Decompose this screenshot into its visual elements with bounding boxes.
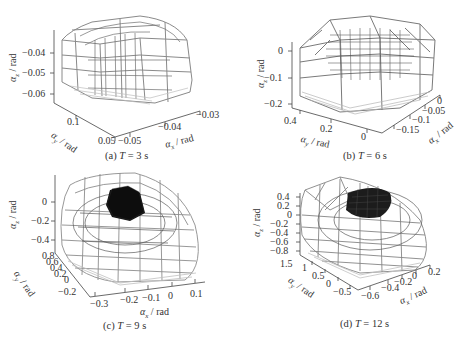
xtick: −0.1	[142, 293, 160, 303]
panel-a: −0.04 −0.05 −0.06 0.1 0.05 −0.05 −0.04 −…	[0, 0, 230, 165]
ytick: 0.05	[98, 136, 116, 146]
caption-c: (c) T = 9 s	[103, 320, 146, 331]
xtick: −0.03	[196, 110, 219, 120]
ztick: −0.8	[270, 246, 288, 256]
zlabel: αz / rad	[252, 208, 266, 237]
xtick: 0	[412, 271, 417, 281]
ytick: 0.2	[320, 124, 333, 134]
xlabel: αx / rad	[140, 307, 169, 321]
xtick: 0.1	[190, 289, 203, 299]
ytick: 0	[64, 275, 69, 285]
panel-b: 0 −0.1 −0.2 0.4 0.2 0 0 −0.05 −0.1 −0.15…	[230, 0, 459, 165]
ytick: 0	[361, 132, 366, 142]
zlabel: αz / rad	[8, 200, 22, 229]
wireframe-plot-d	[230, 165, 459, 338]
caption-a: (a) T = 3 s	[105, 150, 148, 161]
xtick: −0.04	[158, 122, 181, 132]
ztick: −0.06	[22, 89, 45, 99]
ytick: 0.5	[312, 271, 325, 281]
panel-c: 0 −0.2 −0.4 0.8 0.6 0.4 0.2 0 −0.2 −0.3 …	[0, 165, 230, 338]
ytick: 0.4	[284, 116, 297, 126]
ztick: −0.4	[31, 235, 49, 245]
ytick: 0	[326, 279, 331, 289]
ztick: −0.04	[22, 48, 45, 58]
ytick: 1.5	[280, 259, 293, 269]
ytick: −0.5	[333, 287, 351, 297]
ztick: −0.05	[22, 68, 45, 78]
ytick: 0.1	[67, 117, 80, 127]
wireframe-plot-c	[0, 165, 230, 338]
ytick: −0.2	[58, 287, 76, 297]
ztick: −0.2	[31, 216, 49, 226]
xtick: −0.2	[120, 295, 138, 305]
xtick: 0.2	[428, 267, 441, 277]
ztick: 0	[42, 197, 47, 207]
xtick: −0.2	[394, 277, 412, 287]
zlabel: αz / rad	[8, 53, 22, 82]
xtick: 0	[168, 291, 173, 301]
xtick: −0.6	[361, 291, 379, 301]
xtick: −0.3	[90, 299, 108, 309]
ztick: −0.2	[264, 99, 282, 109]
xtick: −0.05	[118, 136, 141, 146]
caption-d: (d) T = 12 s	[340, 318, 389, 329]
zlabel: αz / rad	[256, 59, 270, 88]
xtick: −0.15	[396, 125, 419, 135]
caption-b: (b) T = 6 s	[343, 150, 387, 161]
ztick: 0	[278, 46, 283, 56]
panel-d: 0.4 0.2 0 −0.2 −0.4 −0.6 −0.8 1.5 1 0.5 …	[230, 165, 459, 338]
ytick: 1	[302, 263, 307, 273]
